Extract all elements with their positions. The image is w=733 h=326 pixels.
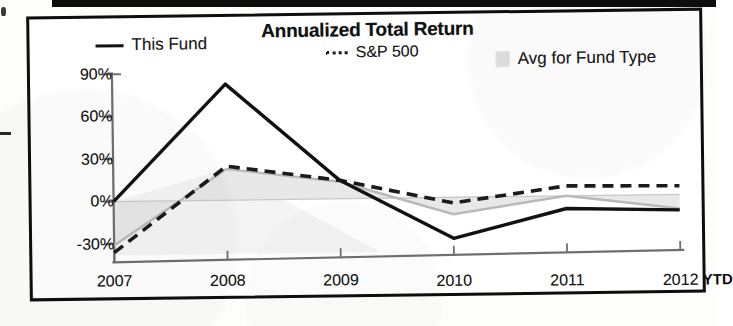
scan-speck — [1, 7, 6, 16]
x-axis-tick-label: 2011 — [550, 271, 585, 289]
x-axis-tick-label: 2008 — [210, 272, 246, 290]
document-top-rule — [52, 0, 716, 7]
x-axis-labels: 200720082009201020112012YTD — [29, 11, 709, 305]
document-left-margin-tick — [0, 132, 11, 135]
x-axis-tick-label: 2010 — [436, 271, 472, 289]
x-axis-tick-label: 2009 — [323, 271, 359, 289]
x-axis-tick-label: 2012 — [663, 271, 699, 289]
annualized-total-return-chart: Annualized Total Return This Fund S&P 50… — [26, 8, 706, 302]
x-axis-tick-label: 2007 — [97, 272, 133, 290]
x-axis-ytd-note: YTD — [703, 270, 733, 287]
